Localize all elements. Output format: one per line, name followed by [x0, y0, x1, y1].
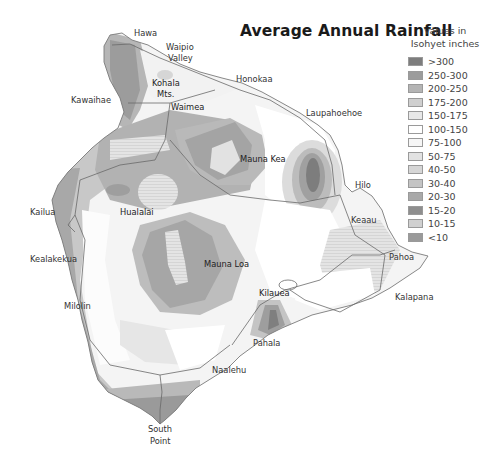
place-label-kohala-line2: Mts.: [157, 89, 174, 100]
place-label-kalapana: Kalapana: [395, 292, 433, 303]
place-label-kohala-line1: Kohala: [152, 78, 180, 89]
place-label-waipio-line2: Valley: [168, 53, 193, 64]
legend-item: 40-50: [408, 163, 490, 177]
place-label-kailua: Kailua: [30, 207, 55, 218]
legend-swatch: [408, 233, 423, 242]
place-label-hualalai: Hualalai: [120, 207, 154, 218]
legend-label: 75-100: [428, 137, 462, 148]
legend-heading-line1: Values in: [400, 24, 490, 37]
legend-item: <10: [408, 231, 490, 245]
place-label-waimea: Waimea: [171, 102, 204, 113]
place-label-south-point-line1: South: [148, 424, 172, 435]
legend-label: <10: [428, 232, 448, 243]
legend-item: 200-250: [408, 82, 490, 96]
legend-swatch: [408, 165, 423, 174]
place-label-pahala: Pahala: [253, 338, 280, 349]
legend-label: 100-150: [428, 124, 468, 135]
legend-item: 75-100: [408, 136, 490, 150]
legend-label: 200-250: [428, 83, 468, 94]
legend-item: 20-30: [408, 190, 490, 204]
place-label-mauna-loa: Mauna Loa: [204, 259, 249, 270]
place-label-pahoa: Pahoa: [389, 252, 414, 263]
legend-swatch: [408, 138, 423, 147]
legend-swatch: [408, 179, 423, 188]
legend-swatch: [408, 206, 423, 215]
legend-label: 175-200: [428, 97, 468, 108]
legend-swatch: [408, 98, 423, 107]
legend-swatch: [408, 152, 423, 161]
legend-label: 40-50: [428, 164, 456, 175]
legend-item: 10-15: [408, 217, 490, 231]
legend: Values in Isohyet inches >300 250-300 20…: [408, 24, 490, 244]
place-label-naalehu: Naalehu: [212, 365, 246, 376]
legend-swatch: [408, 125, 423, 134]
legend-label: 250-300: [428, 70, 468, 81]
place-label-mauna-kea: Mauna Kea: [240, 154, 286, 165]
place-label-hawa: Hawa: [134, 28, 157, 39]
legend-list: >300 250-300 200-250 175-200 150-175 100…: [408, 55, 490, 244]
place-label-south-point-line2: Point: [150, 436, 171, 447]
legend-item: 15-20: [408, 204, 490, 218]
place-label-kealakekua: Kealakekua: [30, 254, 77, 265]
place-label-keaau: Keaau: [351, 215, 377, 226]
place-label-kilauea: Kilauea: [259, 288, 290, 299]
legend-swatch: [408, 71, 423, 80]
legend-heading-line2: Isohyet inches: [400, 37, 490, 50]
legend-item: 100-150: [408, 123, 490, 137]
legend-item: 150-175: [408, 109, 490, 123]
place-label-hilo: Hilo: [355, 180, 371, 191]
legend-item: 175-200: [408, 96, 490, 110]
place-label-kawaihae: Kawaihae: [71, 95, 111, 106]
place-label-waipio-line1: Waipio: [166, 42, 194, 53]
legend-label: 50-75: [428, 151, 456, 162]
legend-label: 150-175: [428, 110, 468, 121]
legend-label: 10-15: [428, 218, 456, 229]
legend-item: 250-300: [408, 69, 490, 83]
legend-swatch: [408, 84, 423, 93]
legend-label: 20-30: [428, 191, 456, 202]
legend-swatch: [408, 111, 423, 120]
legend-label: 30-40: [428, 178, 456, 189]
legend-swatch: [408, 192, 423, 201]
legend-swatch: [408, 219, 423, 228]
legend-item: >300: [408, 55, 490, 69]
legend-label: >300: [428, 56, 454, 67]
legend-label: 15-20: [428, 205, 456, 216]
place-label-laupahoehoe: Laupahoehoe: [306, 108, 362, 119]
place-label-honokaa: Honokaa: [236, 74, 272, 85]
legend-item: 30-40: [408, 177, 490, 191]
legend-swatch: [408, 57, 423, 66]
place-label-milolin: Milolin: [64, 301, 91, 312]
legend-item: 50-75: [408, 150, 490, 164]
